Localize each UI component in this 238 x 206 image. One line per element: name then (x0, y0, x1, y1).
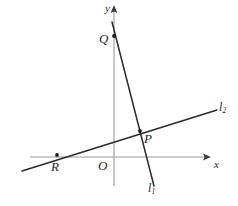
point-P-marker (138, 129, 142, 133)
line-label-l2: l2 (219, 101, 226, 115)
origin-label: O (98, 159, 107, 172)
point-label-R: R (51, 160, 59, 173)
y-axis-label: y (105, 3, 110, 14)
line-label-l1-subscript: 1 (152, 187, 156, 196)
geometry-figure: Q P R O y x l1 l2 (0, 0, 238, 206)
x-axis-label: x (214, 159, 219, 170)
point-R-marker (55, 153, 59, 157)
point-label-Q: Q (99, 32, 108, 45)
point-Q-marker (112, 34, 116, 38)
coordinate-plane-canvas (0, 0, 238, 206)
line-label-l2-subscript: 2 (223, 106, 227, 115)
line-label-l1: l1 (148, 182, 155, 196)
line-label-l1-base: l (148, 181, 151, 195)
line-l1 (112, 22, 154, 186)
point-label-P: P (144, 132, 152, 145)
line-label-l2-base: l (219, 100, 222, 114)
